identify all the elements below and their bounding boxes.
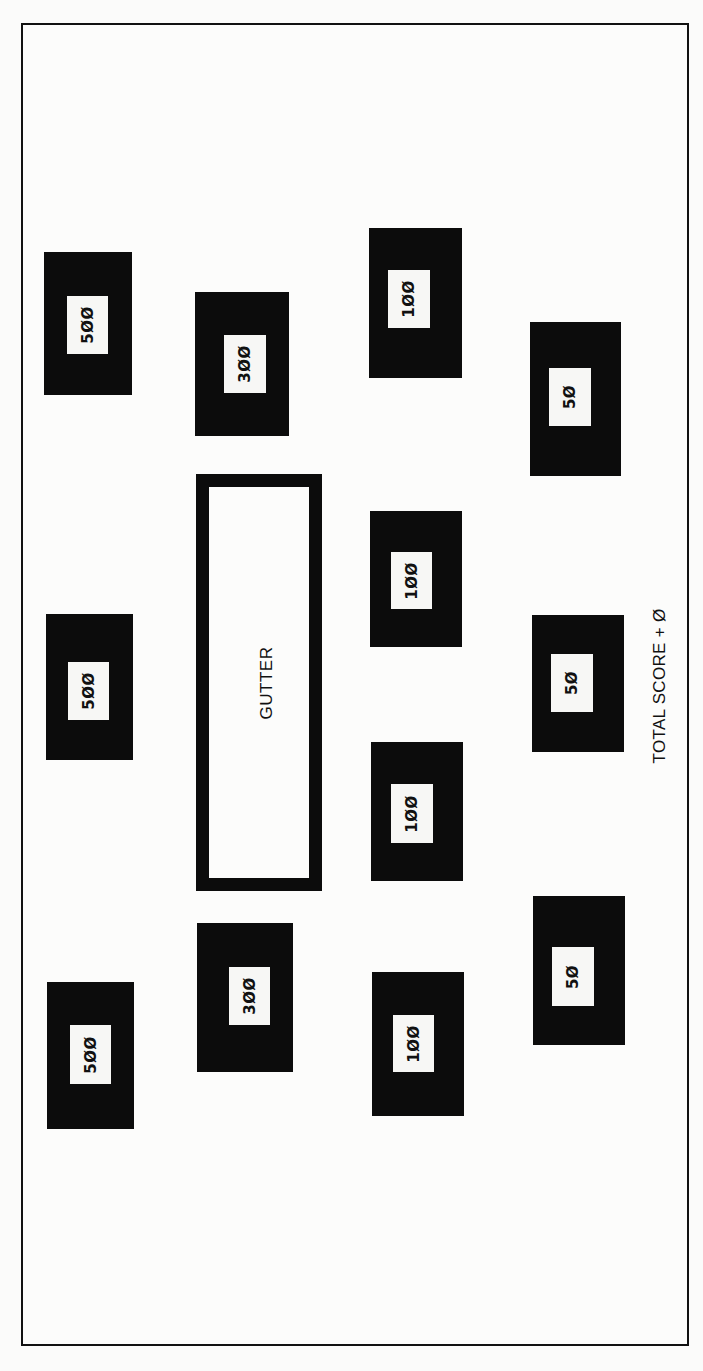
target-value-label: 3ØØ [224, 335, 266, 393]
gutter-zone[interactable]: GUTTER [196, 474, 322, 891]
target-value-label: 5ØØ [70, 1025, 111, 1084]
target-value-text: 5Ø [561, 385, 579, 409]
target-value-label: 3ØØ [229, 967, 270, 1025]
total-score: TOTAL SCORE + Ø [645, 596, 675, 776]
target-value-text: 1ØØ [400, 280, 418, 317]
target-value-label: 5Ø [551, 654, 593, 712]
target-value-label: 5ØØ [67, 296, 108, 354]
target-value-text: 3ØØ [240, 977, 258, 1014]
target-value-text: 5ØØ [81, 1036, 99, 1073]
target-value-label: 5ØØ [68, 662, 109, 720]
target-value-text: 1ØØ [404, 1025, 422, 1062]
target-value-text: 1ØØ [402, 562, 420, 599]
target-value-label: 1ØØ [391, 784, 433, 843]
gutter-label: GUTTER [257, 646, 277, 719]
gutter-label-wrap: GUTTER [209, 487, 309, 878]
target-value-text: 5ØØ [78, 306, 96, 343]
total-score-label: TOTAL SCORE + Ø [650, 609, 670, 764]
target-value-label: 1ØØ [391, 552, 432, 609]
target-value-label: 5Ø [549, 368, 591, 426]
target-value-label: 1ØØ [393, 1015, 434, 1072]
target-value-text: 5Ø [563, 671, 581, 695]
target-value-label: 1ØØ [388, 270, 430, 328]
target-value-text: 1ØØ [403, 795, 421, 832]
target-value-text: 5Ø [564, 964, 582, 988]
target-value-text: 5ØØ [79, 672, 97, 709]
target-value-label: 5Ø [552, 947, 594, 1006]
target-value-text: 3ØØ [236, 345, 254, 382]
